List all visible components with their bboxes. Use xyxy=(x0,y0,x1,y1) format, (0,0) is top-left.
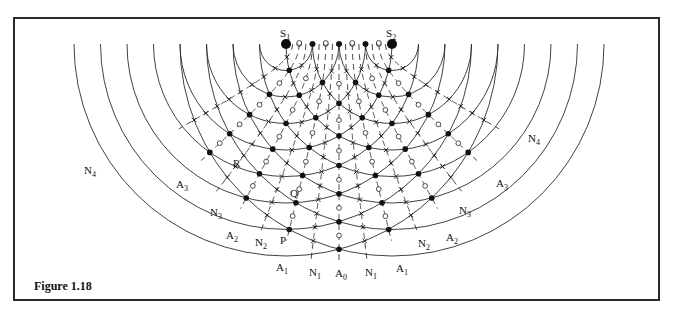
baseline-trough-circle xyxy=(376,41,381,46)
trough-trough-circle xyxy=(436,122,441,127)
antinodal-line-A1-right xyxy=(287,44,326,241)
crest-crest-dot xyxy=(426,112,432,118)
label-A2: A2 xyxy=(226,229,238,244)
crest-crest-dot xyxy=(243,195,249,201)
trough-trough-circle xyxy=(383,108,388,113)
label-N2: N2 xyxy=(255,236,267,251)
crest-trough-cross xyxy=(258,131,262,135)
crest-crest-dot xyxy=(359,115,365,121)
trough-trough-circle xyxy=(370,76,375,81)
crest-trough-cross xyxy=(225,175,229,179)
label-A0: A0 xyxy=(335,267,347,282)
trough-trough-circle xyxy=(303,159,308,164)
baseline-antinode-dot xyxy=(310,41,316,47)
label-N1: N1 xyxy=(309,266,321,281)
crest-crest-dot xyxy=(336,133,342,139)
trough-trough-circle xyxy=(237,122,242,127)
trough-trough-circle xyxy=(290,214,295,219)
crest-trough-cross xyxy=(432,153,436,157)
crest-crest-dot xyxy=(313,115,319,121)
trough-trough-circle xyxy=(423,184,428,189)
label-A1: A1 xyxy=(396,262,408,277)
crest-crest-dot xyxy=(336,163,342,169)
crest-trough-cross xyxy=(389,161,393,165)
label-R: R xyxy=(233,157,241,169)
label-N4: N4 xyxy=(84,164,96,179)
trough-trough-circle xyxy=(303,76,308,81)
baseline-antinode-dot xyxy=(363,41,369,47)
trough-trough-circle xyxy=(396,81,401,86)
crest-crest-dot xyxy=(386,67,392,73)
baseline-trough-circle xyxy=(323,41,328,46)
crest-crest-dot xyxy=(402,146,408,152)
trough-trough-circle xyxy=(317,99,322,104)
crest-arc-s1-5 xyxy=(154,44,419,177)
trough-trough-circle xyxy=(337,205,342,210)
trough-trough-circle xyxy=(416,102,421,107)
trough-trough-circle xyxy=(370,159,375,164)
trough-trough-circle xyxy=(383,214,388,219)
crest-crest-dot xyxy=(336,246,342,252)
crest-crest-dot xyxy=(446,131,452,137)
trough-trough-circle xyxy=(217,141,222,146)
crest-crest-dot xyxy=(366,145,372,151)
trough-trough-circle xyxy=(363,130,368,135)
trough-trough-circle xyxy=(337,81,342,86)
crest-crest-dot xyxy=(429,195,435,201)
crest-trough-cross xyxy=(379,134,383,138)
crest-trough-cross xyxy=(424,142,428,146)
baseline-antinode-dot xyxy=(336,41,342,47)
crest-crest-dot xyxy=(293,200,299,206)
crest-crest-dot xyxy=(207,150,213,156)
trough-trough-circle xyxy=(277,134,282,139)
crest-arc-s2-5 xyxy=(260,44,525,177)
crest-trough-cross xyxy=(435,90,439,94)
crest-trough-cross xyxy=(295,134,299,138)
label-A3: A3 xyxy=(496,177,508,192)
trough-trough-circle xyxy=(250,184,255,189)
baseline-trough-circle xyxy=(350,41,355,46)
trough-trough-circle xyxy=(257,102,262,107)
crest-trough-cross xyxy=(447,97,451,101)
crest-trough-cross xyxy=(470,111,474,115)
trough-trough-circle xyxy=(409,159,414,164)
crest-crest-dot xyxy=(300,173,306,179)
nodal-line-N4-right xyxy=(179,44,293,129)
label-A2: A2 xyxy=(446,231,458,246)
crest-trough-cross xyxy=(250,142,254,146)
label-N1: N1 xyxy=(365,266,377,281)
crest-trough-cross xyxy=(275,187,279,191)
trough-trough-circle xyxy=(356,99,361,104)
crest-trough-cross xyxy=(275,107,279,111)
crest-crest-dot xyxy=(287,227,293,233)
label-N4: N4 xyxy=(528,132,540,147)
crest-crest-dot xyxy=(247,112,253,118)
nodal-line-N4-left xyxy=(385,44,499,129)
crest-trough-cross xyxy=(409,213,413,217)
crest-crest-dot xyxy=(353,80,359,86)
label-P: P xyxy=(280,234,286,246)
crest-trough-cross xyxy=(424,82,428,86)
label-Q: Q xyxy=(290,187,298,199)
label-N3: N3 xyxy=(210,206,222,221)
baseline-trough-circle xyxy=(297,41,302,46)
figure-caption: Figure 1.18 xyxy=(34,279,92,294)
crest-trough-cross xyxy=(440,164,444,168)
crest-trough-cross xyxy=(238,90,242,94)
label-A3: A3 xyxy=(176,178,188,193)
crest-crest-dot xyxy=(283,121,289,127)
crest-crest-dot xyxy=(376,93,382,99)
crest-trough-cross xyxy=(374,63,378,67)
crest-trough-cross xyxy=(482,118,486,122)
crest-trough-cross xyxy=(192,118,196,122)
trough-trough-circle xyxy=(290,108,295,113)
trough-trough-circle xyxy=(376,187,381,192)
crest-crest-dot xyxy=(373,173,379,179)
crest-trough-cross xyxy=(203,111,207,115)
crest-crest-dot xyxy=(336,219,342,225)
trough-trough-circle xyxy=(337,233,342,238)
crest-trough-cross xyxy=(300,63,304,67)
crest-trough-cross xyxy=(415,131,419,135)
crest-trough-cross xyxy=(399,107,403,111)
crest-crest-dot xyxy=(386,227,392,233)
